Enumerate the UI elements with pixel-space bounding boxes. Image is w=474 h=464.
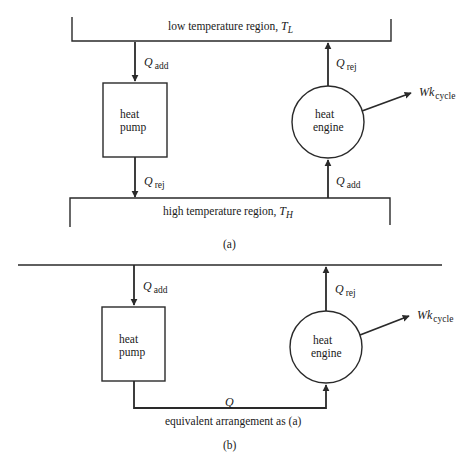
engine-qrej-symbol: Q [336, 56, 345, 70]
high-temperature-region-label: high temperature region, TH [163, 205, 293, 218]
heat-engine-line2-b: engine [311, 347, 342, 360]
work-symbol-b: Wk [417, 308, 432, 322]
qadd-subscript-b: add [154, 285, 168, 295]
work-arrow-a [362, 93, 411, 111]
pump-qrej-label: Qrej [144, 172, 165, 188]
engine-qrej-subscript: rej [347, 62, 357, 72]
heat-pump-engine-diagram: low temperature region, TL Qadd heat pum… [0, 0, 474, 464]
work-subscript-b: cycle [433, 314, 453, 324]
work-symbol: Wk [419, 85, 434, 99]
engine-qadd-symbol: Q [336, 174, 345, 188]
pump-qadd-label-b: Qadd [143, 277, 167, 293]
heat-engine-label-b: heat engine [311, 334, 342, 360]
diagram-lines [0, 0, 474, 464]
high-region-subscript: H [286, 210, 293, 220]
engine-qadd-label: Qadd [336, 172, 360, 188]
high-region-text: high temperature region, [163, 205, 279, 217]
qadd-subscript: add [155, 61, 169, 71]
engine-qrej-symbol-b: Q [335, 282, 344, 296]
q-transfer-label: Q [225, 393, 234, 409]
heat-pump-line2: pump [120, 121, 146, 134]
qrej-symbol: Q [144, 174, 153, 188]
high-region-symbol: T [279, 204, 286, 218]
low-region-text: low temperature region, [168, 20, 281, 32]
engine-qrej-label: Qrej [336, 54, 357, 70]
engine-qadd-subscript: add [347, 180, 361, 190]
low-temperature-region-label: low temperature region, TL [168, 20, 293, 33]
qadd-symbol-b: Q [143, 279, 152, 293]
low-region-subscript: L [288, 25, 293, 35]
heat-engine-line1-b: heat [311, 334, 342, 347]
equivalent-note: equivalent arrangement as (a) [165, 416, 301, 428]
heat-pump-label-b: heat pump [119, 333, 145, 359]
work-subscript: cycle [435, 91, 455, 101]
work-label-b: Wkcycle [417, 306, 453, 322]
engine-qrej-subscript-b: rej [346, 288, 356, 298]
heat-engine-line1: heat [313, 108, 344, 121]
heat-engine-line2: engine [313, 121, 344, 134]
heat-pump-line1-b: heat [119, 333, 145, 346]
heat-pump-line2-b: pump [119, 346, 145, 359]
caption-b: (b) [223, 440, 236, 452]
heat-pump-label: heat pump [120, 108, 146, 134]
heat-pump-line1: heat [120, 108, 146, 121]
qrej-subscript: rej [155, 180, 165, 190]
pump-qadd-label: Qadd [144, 53, 168, 69]
low-region-symbol: T [281, 19, 288, 33]
work-arrow-b [360, 316, 409, 335]
heat-engine-label: heat engine [313, 108, 344, 134]
q-transfer-symbol: Q [225, 395, 234, 409]
work-label-a: Wkcycle [419, 83, 455, 99]
qadd-symbol: Q [144, 55, 153, 69]
engine-qrej-label-b: Qrej [335, 280, 356, 296]
caption-a: (a) [223, 239, 236, 251]
